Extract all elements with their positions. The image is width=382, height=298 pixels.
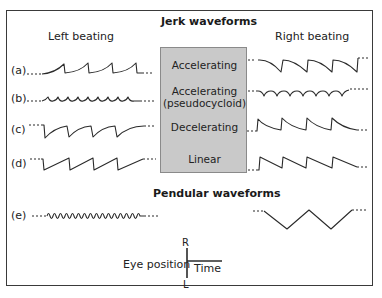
waveform-b-left: [27, 97, 154, 101]
waveform-c-right: [247, 118, 369, 131]
waveform-b-right: [248, 89, 369, 96]
waveform-a-right: [248, 58, 368, 72]
waveform-e-right: [253, 210, 368, 229]
waveform-a-left: [27, 63, 154, 74]
eye-position-axes: [187, 248, 222, 278]
waveform-d-left: [30, 158, 156, 170]
waveform-e-left: [32, 214, 160, 219]
waveforms-svg: [0, 0, 382, 298]
waveform-d-right: [248, 157, 369, 170]
waveform-c-left: [29, 125, 156, 138]
